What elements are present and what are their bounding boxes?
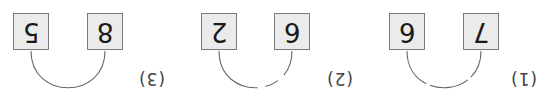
problem-label-2: (2) [326,69,353,89]
number-box-problem-3-right: 8 [87,13,123,50]
box-digit: 5 [23,19,40,45]
problem-label-1: (1) [510,69,537,89]
number-box-problem-1-right: 7 [463,13,499,50]
number-box-problem-1-left: 6 [389,13,425,50]
arc-problem-1 [407,51,481,88]
number-box-problem-3-left: 5 [13,13,49,50]
number-box-problem-2-right: 6 [274,13,310,50]
box-digit: 7 [473,19,490,45]
box-digit: 6 [399,19,416,45]
box-digit: 6 [284,19,301,45]
problem-label-3: (3) [138,69,165,89]
number-bond-diagram: 5 8 (3) 2 6 (2) 6 7 (1) [0,0,548,101]
number-box-problem-2-left: 2 [201,13,237,50]
box-digit: 8 [97,19,114,45]
arc-problem-3 [31,51,105,88]
box-digit: 2 [211,19,228,45]
arc-problem-2 [219,51,292,88]
